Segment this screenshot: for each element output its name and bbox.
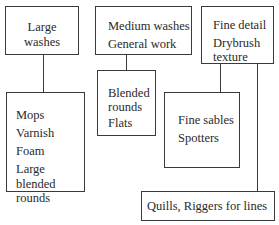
medium-washes-box: Medium washes General work (95, 6, 192, 55)
fine-sables-item-1: Fine sables (178, 113, 234, 128)
connector-fine-detail-to-fine-sables (220, 63, 221, 92)
large-washes-line-2: washes (6, 35, 78, 50)
quills-item-1: Quills, Riggers for lines (147, 199, 267, 214)
fine-detail-line-1: Fine detail (213, 18, 266, 33)
fine-detail-box: Fine detail Drybrush texture (201, 6, 274, 64)
blended-rounds-item-1: Blended (108, 86, 150, 101)
blended-rounds-item-2: rounds (108, 101, 150, 113)
quills-box: Quills, Riggers for lines (141, 191, 275, 221)
blended-rounds-box: Blended rounds Flats (97, 70, 156, 136)
mops-item-2: Varnish (16, 126, 84, 141)
blended-rounds-item-3: Flats (108, 116, 150, 131)
fine-detail-line-2: Drybrush (213, 36, 266, 51)
fine-sables-item-2: Spotters (178, 131, 234, 146)
mops-item-5: rounds (16, 192, 84, 204)
mops-item-4: Large blended (16, 162, 84, 192)
mops-item-1: Mops (16, 108, 84, 123)
mops-box: Mops Varnish Foam Large blended rounds (6, 92, 85, 192)
connector-medium-washes-to-blended-rounds (126, 54, 127, 70)
medium-washes-line-2: General work (108, 37, 190, 52)
fine-sables-box: Fine sables Spotters (164, 92, 240, 168)
connector-fine-detail-to-quills (257, 63, 258, 191)
mops-item-3: Foam (16, 144, 84, 159)
medium-washes-line-1: Medium washes (108, 19, 190, 34)
large-washes-box: Large washes (5, 6, 79, 55)
large-washes-line-1: Large (6, 20, 78, 35)
fine-detail-line-3: texture (213, 51, 266, 63)
connector-large-washes-to-mops (43, 54, 44, 92)
